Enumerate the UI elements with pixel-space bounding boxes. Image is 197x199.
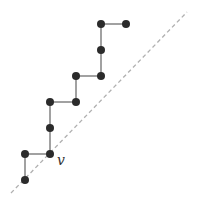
path-node bbox=[21, 150, 29, 158]
path-node bbox=[46, 150, 54, 158]
path-node bbox=[122, 20, 130, 28]
path-node bbox=[97, 46, 105, 54]
path-nodes bbox=[21, 20, 130, 184]
lattice-path-diagram: v bbox=[0, 0, 197, 199]
path-node bbox=[97, 20, 105, 28]
path-node bbox=[97, 72, 105, 80]
path-node bbox=[72, 98, 80, 106]
diagonal-dashed-line bbox=[11, 12, 187, 193]
path-node bbox=[21, 176, 29, 184]
path-node bbox=[46, 98, 54, 106]
vertex-label-v: v bbox=[57, 152, 65, 168]
path-node bbox=[72, 72, 80, 80]
path-node bbox=[46, 124, 54, 132]
